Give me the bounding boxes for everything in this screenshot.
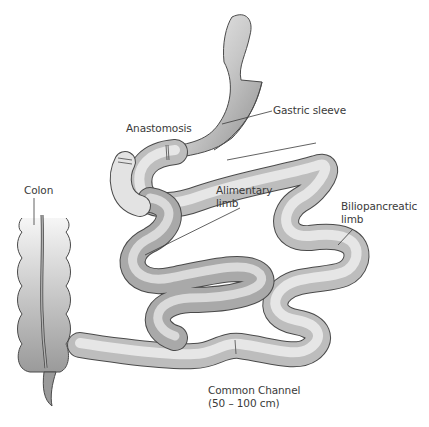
label-colon: Colon	[24, 184, 53, 197]
label-gastric-sleeve: Gastric sleeve	[273, 104, 346, 117]
label-biliopancreatic-line2: limb	[341, 213, 417, 226]
colon-shape	[18, 215, 71, 406]
label-alimentary-limb: Alimentary limb	[216, 184, 272, 210]
label-common-channel: Common Channel (50 – 100 cm)	[208, 384, 300, 410]
label-common-channel-line1: Common Channel	[208, 384, 300, 397]
label-common-channel-line2: (50 – 100 cm)	[208, 397, 300, 410]
label-alimentary-line1: Alimentary	[216, 184, 272, 197]
label-biliopancreatic-line1: Biliopancreatic	[341, 200, 417, 213]
diagram-canvas: Gastric sleeve Anastomosis Colon Aliment…	[0, 0, 429, 427]
label-biliopancreatic-limb: Biliopancreatic limb	[341, 200, 417, 226]
label-alimentary-line2: limb	[216, 197, 272, 210]
label-anastomosis: Anastomosis	[126, 122, 192, 135]
small-intestine-path	[80, 150, 357, 356]
gastric-sleeve-shape	[176, 15, 262, 158]
